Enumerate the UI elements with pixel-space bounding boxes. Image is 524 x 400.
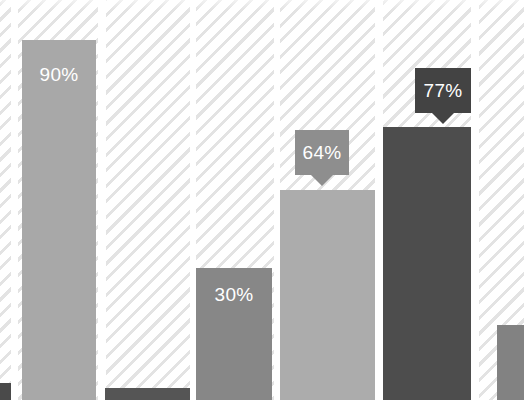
column-background-2 [106, 0, 190, 400]
bar-0[interactable] [0, 383, 11, 400]
bar-5[interactable] [383, 127, 471, 400]
bar-2[interactable] [105, 388, 190, 400]
bar-3[interactable]: 30% [196, 268, 272, 400]
callout-bar-5-label: 77% [424, 81, 463, 100]
callout-bar-4-label: 64% [303, 143, 342, 162]
callout-bar-4[interactable]: 64% [295, 130, 349, 175]
bar-4[interactable] [280, 190, 375, 400]
callout-bar-5-tail [432, 113, 454, 124]
bar-1-label: 90% [22, 65, 96, 84]
bar-1[interactable]: 90% [22, 40, 96, 400]
callout-bar-5[interactable]: 77% [415, 68, 471, 113]
column-background-0 [0, 0, 11, 400]
bar-chart: 90% 30% 64% 77% [0, 0, 524, 400]
bar-6[interactable] [497, 325, 524, 400]
callout-bar-4-tail [311, 175, 333, 186]
bar-3-label: 30% [196, 285, 272, 304]
